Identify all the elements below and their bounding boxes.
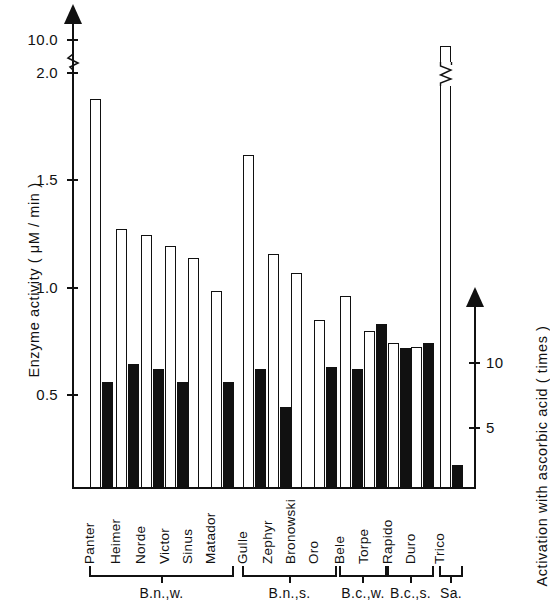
left-axis-tick-label: 2.0 xyxy=(12,65,58,80)
group-bracket xyxy=(242,566,337,577)
bar-ascorbic-activation-trico xyxy=(452,465,463,488)
group-bracket xyxy=(89,566,234,577)
group-bracket-stem xyxy=(161,577,163,583)
bar-enzyme-activity-gulle xyxy=(243,155,254,488)
bar-ascorbic-activation-torpe xyxy=(376,324,387,488)
group-label-sa: Sa. xyxy=(419,585,483,601)
left-y-axis-arrow-icon xyxy=(64,4,82,24)
x-axis-label-oro: Oro xyxy=(306,541,321,564)
bar-enzyme-activity-norde xyxy=(141,235,152,488)
bar-ascorbic-activation-rapido xyxy=(400,348,411,488)
x-axis-label-heimer: Heimer xyxy=(108,519,123,564)
x-axis-label-gulle: Gulle xyxy=(235,531,250,564)
bar-enzyme-activity-zephyr xyxy=(268,254,279,488)
bar-enzyme-activity-oro xyxy=(314,320,325,488)
group-bracket-stem xyxy=(410,577,412,583)
group-bracket xyxy=(387,566,434,577)
bar-ascorbic-activation-heimer xyxy=(128,364,139,488)
bar-enzyme-activity-torpe xyxy=(364,331,375,488)
bar-enzyme-activity-victor xyxy=(165,246,176,488)
x-axis-label-panter: Panter xyxy=(82,522,97,564)
group-bracket-stem xyxy=(450,577,452,583)
group-bracket-stem xyxy=(289,577,291,583)
bar-ascorbic-activation-duro xyxy=(423,343,434,488)
group-bracket xyxy=(339,566,387,577)
group-bracket-stem xyxy=(362,577,364,583)
x-axis-label-victor: Victor xyxy=(157,528,172,564)
bar-ascorbic-activation-gulle xyxy=(255,369,266,488)
bar-enzyme-activity-bele xyxy=(340,296,351,489)
x-axis-label-matador: Matador xyxy=(203,512,218,564)
bar-enzyme-activity-duro xyxy=(411,347,422,488)
left-axis-tick-label: 10.0 xyxy=(12,32,58,47)
bar-enzyme-activity-panter xyxy=(90,99,101,488)
bar-ascorbic-activation-matador xyxy=(223,382,234,488)
x-axis-label-duro: Duro xyxy=(403,534,418,564)
x-axis-label-bele: Bele xyxy=(332,536,347,564)
bar-ascorbic-activation-bele xyxy=(352,369,363,488)
bar-enzyme-activity-matador xyxy=(211,291,222,488)
x-axis-label-bronowski: Bronowski xyxy=(283,499,298,564)
bar-ascorbic-activation-zephyr xyxy=(280,407,291,488)
bar-enzyme-activity-bronowski xyxy=(291,273,302,488)
x-axis-label-sinus: Sinus xyxy=(180,529,195,564)
right-axis-tick-label: 10 xyxy=(486,355,516,370)
bar-enzyme-activity-trico xyxy=(440,46,451,488)
x-axis-label-norde: Norde xyxy=(133,526,148,564)
bar-enzyme-activity-rapido xyxy=(388,343,399,488)
bar-ascorbic-activation-victor xyxy=(177,382,188,488)
bar-enzyme-activity-sinus xyxy=(188,258,199,488)
plot-area xyxy=(72,22,476,488)
right-axis-tick-label: 5 xyxy=(486,420,516,435)
right-axis-title: Activation with ascorbic acid ( times ) xyxy=(534,306,550,606)
group-brackets: B.n.,w.B.n.,s.B.c.,w.B.c.,s.Sa. xyxy=(72,566,476,616)
bar-enzyme-activity-heimer xyxy=(116,229,127,488)
bar-ascorbic-activation-panter xyxy=(102,382,113,488)
x-axis-label-torpe: Torpe xyxy=(356,529,371,564)
bar-ascorbic-activation-norde xyxy=(153,369,164,488)
bar-ascorbic-activation-oro xyxy=(326,367,337,488)
left-axis-title: Enzyme activity ( μM / min ) xyxy=(26,145,42,415)
group-bracket xyxy=(439,566,463,577)
x-axis-label-rapido: Rapido xyxy=(380,519,395,564)
x-axis-label-trico: Trico xyxy=(432,533,447,564)
category-labels: PanterHeimerNordeVictorSinusMatadorGulle… xyxy=(72,492,476,564)
x-axis-label-zephyr: Zephyr xyxy=(260,520,275,564)
